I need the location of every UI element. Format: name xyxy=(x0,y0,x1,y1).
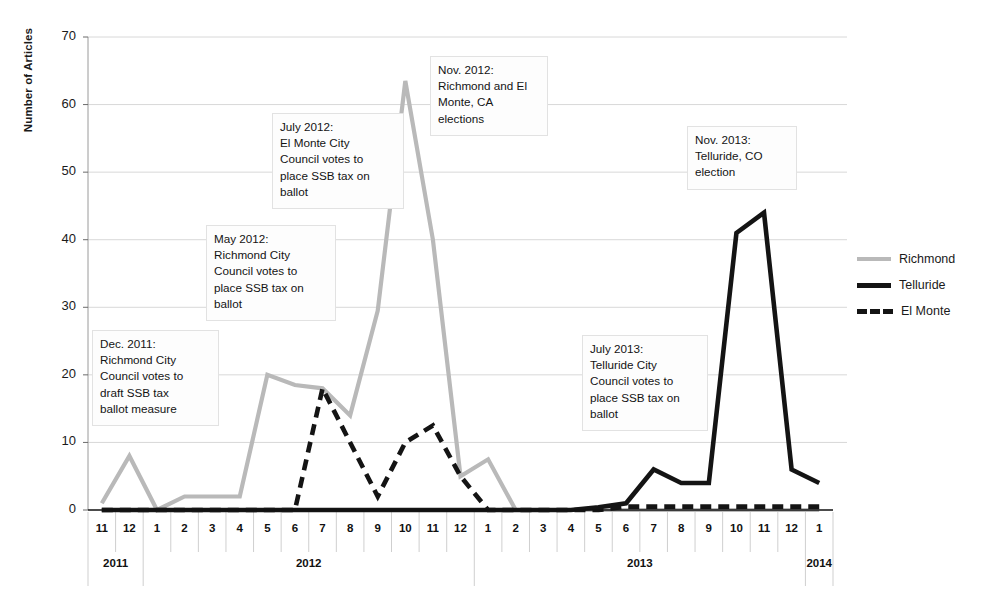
x-axis-tick-label: 7 xyxy=(640,522,668,534)
chart-legend: Richmond Telluride El Monte xyxy=(857,246,987,324)
x-axis-year-label: 2014 xyxy=(805,557,833,569)
x-axis-year-label: 2012 xyxy=(143,557,474,569)
y-axis-tick-label: 60 xyxy=(40,96,76,111)
chart-container: Number of Articles 010203040506070 11121… xyxy=(0,0,990,594)
x-axis-tick-label: 10 xyxy=(723,522,751,534)
x-axis-tick-label: 8 xyxy=(336,522,364,534)
x-axis-tick-label: 9 xyxy=(695,522,723,534)
legend-line-el-monte-icon xyxy=(857,309,893,314)
annotation-nov-2012: Nov. 2012: Richmond and El Monte, CA ele… xyxy=(430,56,548,136)
legend-label-richmond: Richmond xyxy=(899,252,955,266)
x-axis-tick-label: 12 xyxy=(778,522,806,534)
x-axis-tick-label: 1 xyxy=(805,522,833,534)
annotation-nov-2013: Nov. 2013: Telluride, CO election xyxy=(687,126,797,190)
y-axis-tick-label: 10 xyxy=(40,433,76,448)
annotation-july-2013: July 2013: Telluride City Council votes … xyxy=(582,335,708,431)
x-axis-tick-label: 4 xyxy=(226,522,254,534)
x-axis-tick-label: 3 xyxy=(529,522,557,534)
x-axis-tick-label: 10 xyxy=(392,522,420,534)
legend-line-telluride-icon xyxy=(857,283,891,288)
legend-label-el-monte: El Monte xyxy=(901,304,950,318)
x-axis-tick-label: 4 xyxy=(557,522,585,534)
y-axis-tick-label: 40 xyxy=(40,231,76,246)
x-axis-tick-label: 6 xyxy=(612,522,640,534)
y-axis-tick-label: 50 xyxy=(40,163,76,178)
annotation-july-2012: July 2012: El Monte City Council votes t… xyxy=(272,113,404,209)
x-axis-year-label: 2011 xyxy=(88,557,143,569)
x-axis-tick-label: 5 xyxy=(254,522,282,534)
x-axis-tick-label: 12 xyxy=(116,522,144,534)
y-axis-tick-label: 0 xyxy=(40,501,76,516)
x-axis-tick-label: 9 xyxy=(364,522,392,534)
annotation-may-2012: May 2012: Richmond City Council votes to… xyxy=(206,225,336,321)
annotation-dec-2011: Dec. 2011: Richmond City Council votes t… xyxy=(92,330,219,426)
x-axis-tick-label: 1 xyxy=(143,522,171,534)
x-axis-tick-label: 8 xyxy=(667,522,695,534)
y-axis-tick-label: 20 xyxy=(40,366,76,381)
y-axis-tick-label: 70 xyxy=(40,28,76,43)
x-axis-tick-label: 6 xyxy=(281,522,309,534)
y-axis-tick-label: 30 xyxy=(40,298,76,313)
legend-item-telluride: Telluride xyxy=(857,272,987,298)
x-axis-tick-label: 12 xyxy=(447,522,475,534)
legend-item-richmond: Richmond xyxy=(857,246,987,272)
x-axis-tick-label: 11 xyxy=(419,522,447,534)
x-axis-tick-label: 11 xyxy=(88,522,116,534)
x-axis-tick-label: 2 xyxy=(502,522,530,534)
legend-label-telluride: Telluride xyxy=(899,278,946,292)
x-axis-year-label: 2013 xyxy=(474,557,805,569)
x-axis-tick-label: 3 xyxy=(198,522,226,534)
x-axis-tick-label: 2 xyxy=(171,522,199,534)
x-axis-tick-label: 5 xyxy=(585,522,613,534)
legend-line-richmond-icon xyxy=(857,257,891,261)
legend-item-el-monte: El Monte xyxy=(857,298,987,324)
x-axis-tick-label: 7 xyxy=(309,522,337,534)
x-axis-tick-label: 11 xyxy=(750,522,778,534)
x-axis-tick-label: 1 xyxy=(474,522,502,534)
